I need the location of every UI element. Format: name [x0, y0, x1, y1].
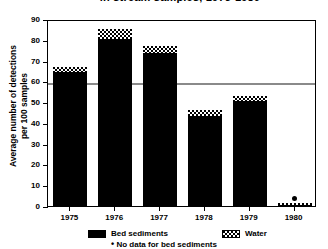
chart-root: in stream samples, 1975-1980 Average num… — [0, 0, 328, 249]
chart-title: in stream samples, 1975-1980 — [44, 0, 316, 3]
y-tick-label: 20 — [0, 161, 40, 169]
y-tick-label: 80 — [0, 37, 40, 45]
y-tick-label: 70 — [0, 58, 40, 66]
reference-line — [48, 83, 315, 85]
no-data-marker-1980 — [292, 196, 297, 201]
legend-item-water: Water — [222, 229, 267, 238]
bar-segment-water-1979[interactable] — [233, 96, 267, 102]
y-tick-label: 40 — [0, 120, 40, 128]
bar-1975[interactable] — [53, 67, 87, 206]
plot-area — [47, 20, 316, 207]
y-tick-label: 10 — [0, 182, 40, 190]
bar-segment-water-1980[interactable] — [278, 203, 312, 206]
x-tick-label-1979: 1979 — [227, 213, 271, 222]
x-tick-mark — [69, 207, 70, 211]
x-tick-mark — [204, 207, 205, 211]
x-tick-label-1977: 1977 — [137, 213, 181, 222]
legend-label-bed-sediments: Bed sediments — [111, 229, 168, 238]
legend-item-bed-sediments: Bed sediments — [88, 229, 168, 238]
y-tick-label: 90 — [0, 16, 40, 24]
x-tick-mark — [114, 207, 115, 211]
x-tick-mark — [249, 207, 250, 211]
footnote-text: No data for bed sediments — [116, 240, 216, 249]
plot-inner — [48, 21, 315, 206]
bar-segment-water-1975[interactable] — [53, 67, 87, 73]
bar-segment-water-1978[interactable] — [188, 110, 222, 116]
x-tick-mark — [159, 207, 160, 211]
y-tick-label: 30 — [0, 141, 40, 149]
x-tick-mark — [294, 207, 295, 211]
bar-1977[interactable] — [143, 46, 177, 206]
y-tick-mark — [43, 207, 48, 208]
y-tick-label: 50 — [0, 99, 40, 107]
bar-1979[interactable] — [233, 96, 267, 206]
footnote-dot-icon: • — [111, 239, 114, 249]
chart-footnote: • No data for bed sediments — [0, 240, 328, 249]
y-tick-label: 60 — [0, 78, 40, 86]
x-tick-label-1976: 1976 — [92, 213, 136, 222]
x-tick-label-1978: 1978 — [182, 213, 226, 222]
legend-swatch-water-icon — [222, 230, 240, 238]
legend-swatch-bed-sediments-icon — [88, 230, 106, 238]
x-tick-label-1980: 1980 — [272, 213, 316, 222]
bar-1978[interactable] — [188, 110, 222, 206]
legend-label-water: Water — [245, 229, 267, 238]
bar-1980[interactable] — [278, 203, 312, 206]
y-tick-label: 0 — [0, 203, 40, 211]
x-tick-label-1975: 1975 — [47, 213, 91, 222]
bar-segment-water-1977[interactable] — [143, 46, 177, 54]
bar-1976[interactable] — [98, 29, 132, 206]
bar-segment-water-1976[interactable] — [98, 29, 132, 39]
